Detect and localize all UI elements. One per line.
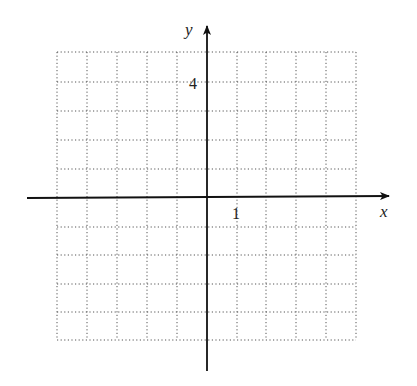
y-axis-label: y xyxy=(183,20,193,39)
x-axis xyxy=(27,196,389,198)
x-axis-label: x xyxy=(379,202,388,221)
coordinate-plane: x y 1 4 xyxy=(0,0,417,386)
x-tick-label: 1 xyxy=(232,205,240,222)
y-tick-label: 4 xyxy=(189,75,197,92)
